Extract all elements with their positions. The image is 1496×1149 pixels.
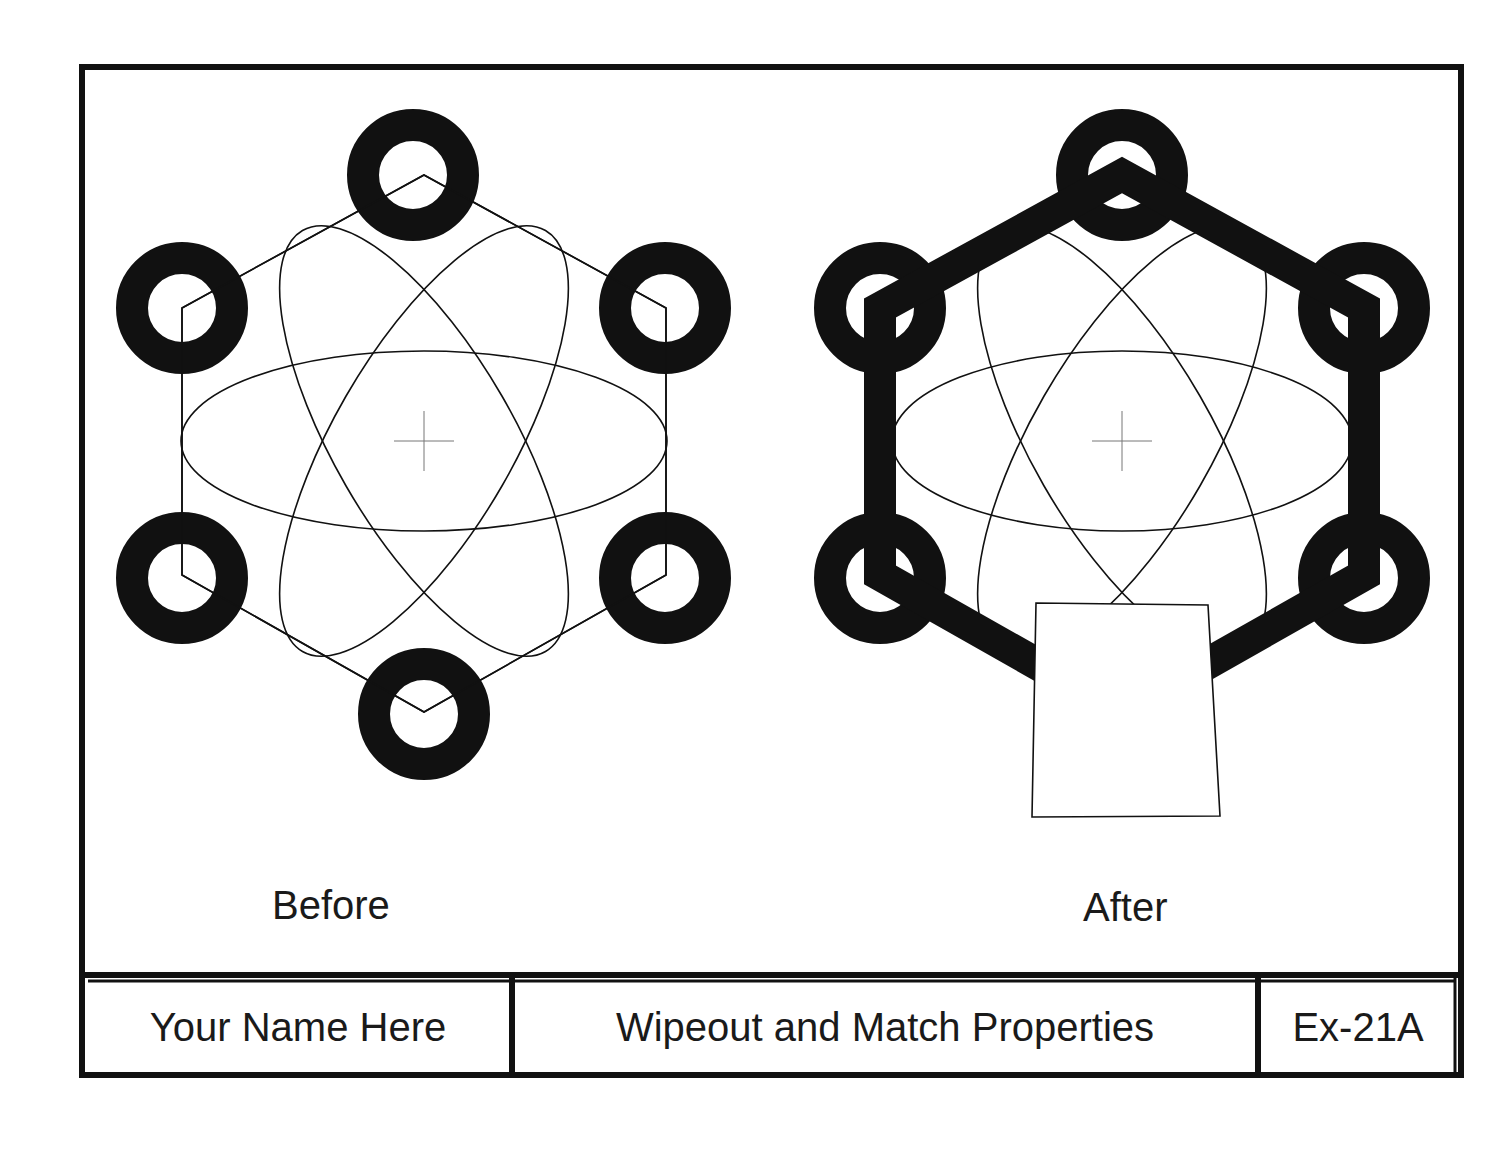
before-caption: Before: [272, 883, 390, 928]
drawing-canvas: [0, 0, 1496, 1149]
before-figure: [132, 125, 715, 764]
after-caption: After: [1083, 885, 1167, 930]
title-block-title: Wipeout and Match Properties: [515, 984, 1255, 1070]
title-block-name: Your Name Here: [88, 984, 508, 1070]
ring-lower-right: [615, 528, 715, 628]
drawing-sheet: Before After Your Name Here Wipeout and …: [0, 0, 1496, 1149]
title-block-exercise: Ex-21A: [1261, 984, 1455, 1070]
rings: [830, 125, 1414, 628]
ring-bottom: [374, 664, 474, 764]
center-mark: [1092, 411, 1152, 471]
after-figure: [830, 125, 1414, 817]
center-mark: [394, 411, 454, 471]
wipeout-frame: [1032, 603, 1220, 817]
ring-top: [363, 125, 463, 225]
